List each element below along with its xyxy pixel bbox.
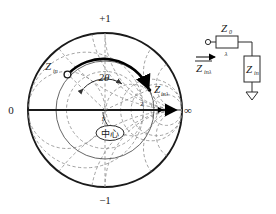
line-box-label: Z 0 [221, 22, 232, 35]
angle-2theta-label: 2θ [99, 71, 111, 83]
z-in-lambda-label-sub: inλ [161, 91, 169, 97]
label-infinity: ∞ [184, 104, 192, 116]
figure-root: 中心 +1 −1 0 ∞ 1 2 2θ Z in Z inλ [0, 0, 276, 214]
line-box-label-base: Z [221, 22, 228, 34]
load-box-label-base: Z [246, 63, 253, 75]
input-arrow-label-base: Z [196, 62, 203, 74]
ground-triangle-icon [246, 92, 258, 100]
label-zero: 0 [8, 104, 14, 116]
reactance-arc-grid [28, 0, 276, 214]
z-in-label: Z in [45, 60, 58, 74]
z-in-label-base: Z [45, 60, 52, 72]
circuit-labels: Z 0 λ Z in Z inλ [196, 22, 259, 76]
transmission-line-box [216, 36, 238, 48]
smith-chart-group: 中心 +1 −1 0 ∞ 1 2 2θ Z in Z inλ [8, 0, 276, 214]
line-length-label: λ [223, 50, 227, 58]
line-box-label-sub: 0 [229, 29, 232, 35]
z-in-point-marker [64, 71, 71, 78]
source-terminal-circle [205, 39, 210, 44]
load-box-label-sub: in [254, 70, 259, 76]
smith-chart-figure: 中心 +1 −1 0 ∞ 1 2 2θ Z in Z inλ [0, 0, 276, 214]
z-in-lambda-label-base: Z [154, 83, 161, 95]
z-in-label-sub: in [53, 68, 58, 74]
center-label-text: 中心 [101, 128, 119, 139]
input-impedance-arrow-label: Z inλ [196, 62, 212, 75]
label-minus-one: −1 [99, 194, 111, 206]
resistance-tick-1: 1 [101, 115, 105, 123]
resistance-tick-2: 2 [140, 100, 144, 108]
input-arrow-label-sub: inλ [204, 69, 212, 75]
label-plus-one: +1 [99, 12, 111, 24]
